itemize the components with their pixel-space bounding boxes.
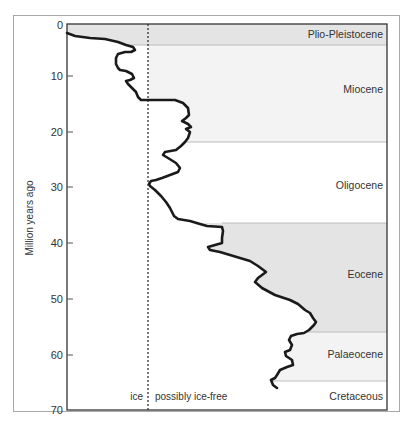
y-tick-label: 40 (51, 237, 63, 249)
y-tick-label: 20 (51, 126, 63, 138)
y-ticks (67, 76, 73, 355)
band-label-cretaceous: Cretaceous (329, 390, 383, 402)
band-label-miocene: Miocene (343, 83, 383, 95)
ice-free-label: possibly ice-free (155, 391, 228, 402)
y-tick-label: 60 (51, 349, 63, 361)
y-axis-label: Million years ago (24, 180, 35, 255)
band-label-palaeocene: Palaeocene (328, 348, 384, 360)
chart: 0 10 20 30 40 50 60 70 Million years ago… (0, 0, 407, 423)
band-label-plio-pleistocene: Plio-Pleistocene (308, 28, 383, 40)
epoch-bands (67, 24, 387, 381)
y-tick-label: 30 (51, 181, 63, 193)
band-label-eocene: Eocene (347, 268, 383, 280)
y-tick-label: 10 (51, 70, 63, 82)
y-tick-label: 70 (51, 404, 63, 416)
ice-label: ice (130, 391, 143, 402)
y-tick-label: 0 (57, 19, 63, 31)
y-tick-labels: 0 10 20 30 40 50 60 70 (51, 19, 63, 416)
band-label-oligocene: Oligocene (336, 179, 383, 191)
y-tick-label: 50 (51, 293, 63, 305)
